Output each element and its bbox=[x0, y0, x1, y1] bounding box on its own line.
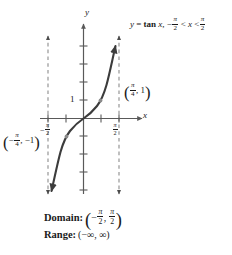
equation-less-than-1: < bbox=[181, 19, 186, 29]
equation-lhs: y bbox=[130, 19, 134, 29]
equation-function-name: tan bbox=[144, 19, 157, 29]
fraction-denominator: 4 bbox=[130, 91, 136, 99]
domain-left-sign: − bbox=[91, 212, 97, 223]
point-label-positive: (π4, 1) bbox=[124, 82, 151, 99]
y-axis-label: y bbox=[85, 8, 89, 17]
domain-right-fraction: π2 bbox=[109, 208, 115, 226]
fraction-denominator: 4 bbox=[14, 141, 20, 149]
caption: Domain:(−π2, π2) Range:(−∞, ∞) bbox=[44, 208, 122, 242]
close-paren: ) bbox=[116, 214, 122, 227]
close-paren: ) bbox=[34, 137, 40, 149]
fraction-denominator: 2 bbox=[109, 217, 115, 225]
equation-variable-2: x bbox=[188, 19, 192, 29]
y-axis bbox=[80, 24, 88, 194]
domain-left-fraction: π2 bbox=[97, 208, 103, 226]
equation-comma: , bbox=[162, 19, 164, 29]
x-axis-label: x bbox=[143, 111, 147, 120]
domain-label: Domain: bbox=[44, 212, 83, 223]
tick-fraction: π2 bbox=[113, 122, 118, 136]
fraction-numerator: π bbox=[97, 208, 103, 217]
point-x-sign: − bbox=[9, 135, 14, 145]
fraction-denominator: 2 bbox=[200, 25, 206, 33]
tick-sign: − bbox=[40, 126, 45, 135]
x-axis bbox=[40, 115, 142, 123]
x-tick-label-half-pi: π2 bbox=[112, 122, 118, 136]
fraction-denominator: 2 bbox=[97, 217, 103, 225]
point-comma: , bbox=[20, 135, 22, 145]
equation-right-bound-fraction: π2 bbox=[200, 16, 206, 32]
point-x-fraction: π4 bbox=[130, 82, 136, 98]
domain-comma: , bbox=[104, 212, 107, 223]
fraction-denominator: 2 bbox=[113, 130, 118, 137]
equation-label: y = tan x, −π2 < x <π2 bbox=[130, 16, 206, 32]
domain-value: (−π2, π2) bbox=[85, 212, 122, 223]
close-paren: ) bbox=[145, 87, 151, 99]
range-row: Range:(−∞, ∞) bbox=[44, 229, 122, 240]
y-unit-tick-label: 1 bbox=[70, 95, 75, 104]
equation-equals: = bbox=[136, 19, 141, 29]
point-marker-negative bbox=[65, 135, 69, 139]
point-marker-positive bbox=[99, 99, 103, 103]
equation-less-than-2: < bbox=[194, 19, 199, 29]
point-comma: , bbox=[136, 85, 138, 95]
equation-left-bound-sign: − bbox=[167, 19, 172, 29]
range-label: Range: bbox=[44, 229, 76, 240]
point-y-value: −1 bbox=[25, 135, 35, 145]
range-value: (−∞, ∞) bbox=[78, 229, 110, 240]
point-x-fraction: π4 bbox=[14, 132, 20, 148]
point-label-negative: (−π4, −1) bbox=[3, 132, 40, 149]
x-tick-label-neg-half-pi: −π2 bbox=[40, 122, 51, 136]
fraction-denominator: 2 bbox=[172, 25, 178, 33]
equation-left-bound-fraction: π2 bbox=[172, 16, 178, 32]
tick-fraction: π2 bbox=[45, 122, 50, 136]
domain-row: Domain:(−π2, π2) bbox=[44, 208, 122, 227]
tangent-function-figure: y = tan x, −π2 < x <π2 (π4, 1) (−π4, −1)… bbox=[0, 0, 232, 255]
fraction-denominator: 2 bbox=[45, 130, 50, 137]
fraction-numerator: π bbox=[109, 208, 115, 217]
open-paren: ( bbox=[124, 87, 130, 99]
